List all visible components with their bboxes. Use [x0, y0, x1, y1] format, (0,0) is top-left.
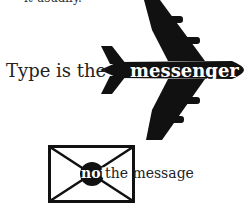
footer-highlight: not [81, 165, 107, 181]
footer-rest: the message [105, 165, 194, 181]
